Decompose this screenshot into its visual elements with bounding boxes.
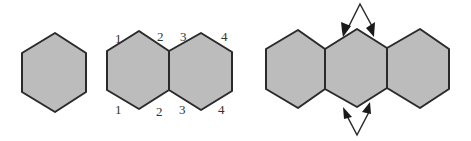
hexagon-diagram: 1 2 3 4 1 2 3 4 bbox=[0, 0, 471, 141]
label-bottom-1: 1 bbox=[115, 102, 122, 117]
label-top-1: 1 bbox=[115, 31, 122, 46]
label-bottom-3: 3 bbox=[179, 102, 186, 117]
label-top-4: 4 bbox=[221, 29, 228, 44]
hexagon bbox=[22, 33, 86, 112]
panel-hexagon-pair: 1 2 3 4 1 2 3 4 bbox=[107, 29, 232, 119]
hexagon-left bbox=[266, 30, 325, 108]
hexagon-right bbox=[387, 29, 449, 108]
panel-hexagon-triple bbox=[266, 4, 449, 135]
hexagon-right bbox=[169, 33, 232, 110]
hexagon-middle bbox=[325, 29, 387, 107]
panel-single-hexagon bbox=[22, 33, 86, 112]
label-top-2: 2 bbox=[157, 29, 164, 44]
label-bottom-2: 2 bbox=[156, 104, 163, 119]
label-top-3: 3 bbox=[180, 29, 187, 44]
label-bottom-4: 4 bbox=[218, 102, 225, 117]
